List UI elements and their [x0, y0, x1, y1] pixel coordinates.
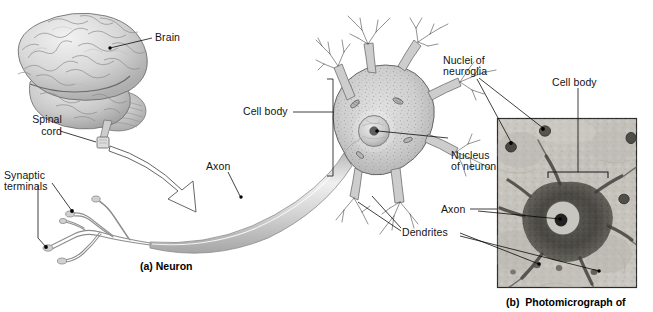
photomicrograph — [490, 119, 644, 299]
label-axon-b: Axon — [441, 204, 465, 216]
label-nucleus-of-neuron-line2: of neuron — [451, 161, 496, 173]
spinal-cord-segment — [97, 137, 109, 148]
caption-panel-b: (b) Photomicrograph of — [506, 296, 626, 308]
label-synaptic-terminals-line2: terminals — [4, 181, 48, 193]
figure-artwork — [0, 0, 653, 312]
label-cell-body-b: Cell body — [552, 77, 597, 89]
label-dendrites: Dendrites — [402, 227, 448, 239]
caption-panel-a: (a) Neuron — [140, 260, 193, 272]
label-spinal-cord-line1: Spinal — [0, 114, 62, 126]
figure-container: ● Figure 4-15 Neural Tissue — [0, 0, 653, 312]
label-cell-body-a: Cell body — [243, 106, 288, 118]
label-axon-a: Axon — [206, 161, 230, 173]
label-brain: Brain — [155, 32, 180, 44]
label-nuclei-neuroglia-line2: neuroglia — [443, 66, 487, 78]
label-spinal-cord-line2: cord — [0, 126, 62, 138]
